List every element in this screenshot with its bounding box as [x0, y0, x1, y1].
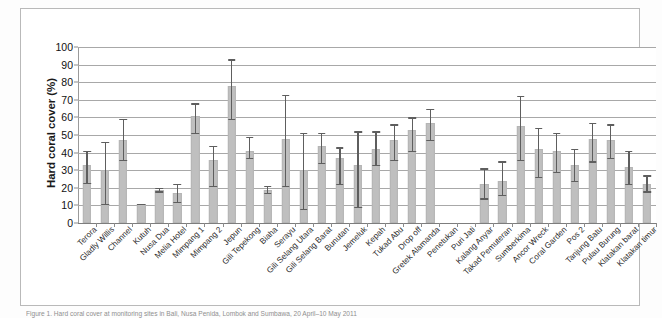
bar-group[interactable] — [512, 47, 530, 223]
bar-group[interactable] — [530, 47, 548, 223]
bar[interactable] — [155, 190, 163, 223]
bar-group[interactable] — [367, 47, 385, 223]
figure-caption: Figure 1. Hard coral cover at monitoring… — [26, 309, 646, 318]
error-bar-line — [123, 119, 124, 159]
error-bar-cap-lower — [155, 191, 163, 192]
error-bar-cap-lower — [408, 151, 416, 152]
bar-group[interactable] — [295, 47, 313, 223]
error-bar-cap-upper — [101, 142, 109, 143]
y-tick-label: 40 — [61, 147, 73, 159]
error-bar-cap-upper — [625, 151, 633, 152]
bar-group[interactable] — [385, 47, 403, 223]
error-bar-cap-upper — [481, 168, 489, 169]
error-bar-cap-upper — [354, 131, 362, 132]
error-bar-line — [592, 123, 593, 162]
error-bar-cap-lower — [553, 172, 561, 173]
error-bar-line — [610, 124, 611, 157]
error-bar-cap-upper — [390, 124, 398, 125]
bar-group[interactable] — [78, 47, 96, 223]
error-bar-cap-lower — [192, 133, 200, 134]
bar-group[interactable] — [186, 47, 204, 223]
bar-group[interactable] — [548, 47, 566, 223]
error-bar-line — [213, 146, 214, 186]
error-bar-line — [628, 151, 629, 184]
chart-frame: Hard coral cover (%) 0102030405060708090… — [20, 8, 640, 306]
bar[interactable] — [137, 204, 145, 223]
bar-group[interactable] — [493, 47, 511, 223]
error-bar-cap-lower — [174, 202, 182, 203]
error-bar-cap-lower — [354, 207, 362, 208]
bar-group[interactable] — [620, 47, 638, 223]
bar[interactable] — [264, 190, 272, 223]
error-bar-cap-upper — [318, 133, 326, 134]
bar-group[interactable] — [204, 47, 222, 223]
error-bar-line — [231, 59, 232, 119]
y-tick-label: 30 — [61, 164, 73, 176]
error-bar-line — [105, 142, 106, 204]
bar[interactable] — [245, 151, 253, 223]
error-bar-line — [86, 151, 87, 183]
bar-group[interactable] — [638, 47, 656, 223]
error-bar-line — [502, 161, 503, 194]
error-bar-cap-lower — [137, 204, 145, 205]
bar-group[interactable] — [331, 47, 349, 223]
error-bar-cap-upper — [589, 123, 597, 124]
error-bar-cap-lower — [643, 191, 651, 192]
error-bar-cap-upper — [643, 175, 651, 176]
bar-group[interactable] — [150, 47, 168, 223]
error-bar-line — [538, 128, 539, 177]
error-bar-line — [177, 184, 178, 202]
error-bar-line — [394, 124, 395, 159]
bar-group[interactable] — [114, 47, 132, 223]
bar-group[interactable] — [241, 47, 259, 223]
y-tick-label: 60 — [61, 111, 73, 123]
error-bar-cap-lower — [589, 161, 597, 162]
error-bar-line — [339, 147, 340, 184]
bar-group[interactable] — [313, 47, 331, 223]
bar-group[interactable] — [349, 47, 367, 223]
error-bar-cap-lower — [210, 186, 218, 187]
error-bar-cap-upper — [300, 133, 308, 134]
error-bar-line — [303, 133, 304, 209]
error-bar-line — [357, 131, 358, 207]
y-axis-title: Hard coral cover (%) — [45, 43, 57, 223]
y-tick-label: 10 — [61, 199, 73, 211]
bar-group[interactable] — [96, 47, 114, 223]
error-bar-cap-upper — [282, 95, 290, 96]
error-bar-line — [195, 103, 196, 133]
bar-group[interactable] — [168, 47, 186, 223]
bar-group[interactable] — [403, 47, 421, 223]
figure-container: Hard coral cover (%) 0102030405060708090… — [0, 0, 662, 318]
error-bar-cap-lower — [571, 181, 579, 182]
error-bar-cap-lower — [426, 140, 434, 141]
bar-group[interactable] — [602, 47, 620, 223]
x-tick-mark — [656, 223, 657, 227]
bar-group[interactable] — [223, 47, 241, 223]
bar-group[interactable] — [566, 47, 584, 223]
error-bar-line — [574, 149, 575, 181]
bar-group[interactable] — [421, 47, 439, 223]
y-tick-label: 50 — [61, 129, 73, 141]
error-bar-cap-upper — [499, 161, 507, 162]
error-bar-line — [556, 133, 557, 172]
error-bar-cap-upper — [192, 103, 200, 104]
error-bar-cap-upper — [228, 59, 236, 60]
error-bar-cap-lower — [300, 209, 308, 210]
bar-group[interactable] — [584, 47, 602, 223]
error-bar-cap-lower — [101, 204, 109, 205]
bar-group[interactable] — [132, 47, 150, 223]
bar-group[interactable] — [277, 47, 295, 223]
error-bar-line — [249, 137, 250, 158]
error-bar-cap-upper — [571, 149, 579, 150]
y-tick-label: 90 — [61, 59, 73, 71]
error-bar-cap-lower — [607, 158, 615, 159]
error-bar-line — [484, 168, 485, 198]
error-bar-cap-upper — [535, 128, 543, 129]
error-bar-cap-upper — [372, 131, 380, 132]
bar-group[interactable] — [457, 47, 475, 223]
error-bar-cap-upper — [408, 117, 416, 118]
bar-group[interactable] — [439, 47, 457, 223]
bar-group[interactable] — [475, 47, 493, 223]
error-bar-cap-lower — [499, 195, 507, 196]
bar-group[interactable] — [259, 47, 277, 223]
